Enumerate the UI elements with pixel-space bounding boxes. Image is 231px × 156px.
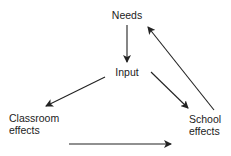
node-school-label-line1: School — [189, 113, 221, 125]
edge-input-to-school — [151, 72, 188, 108]
node-school-label-line2: effects — [189, 125, 221, 137]
node-classroom-label-line2: effects — [9, 124, 59, 136]
node-input: Input — [113, 66, 141, 78]
node-school-effects: School effects — [189, 113, 221, 137]
edge-input-to-classroom — [46, 77, 105, 106]
node-needs-label: Needs — [111, 9, 143, 21]
node-classroom-effects: Classroom effects — [9, 112, 59, 136]
node-input-label: Input — [113, 66, 141, 78]
edge-school-to-needs — [148, 27, 214, 110]
node-classroom-label-line1: Classroom — [9, 112, 59, 124]
node-needs: Needs — [111, 9, 143, 21]
